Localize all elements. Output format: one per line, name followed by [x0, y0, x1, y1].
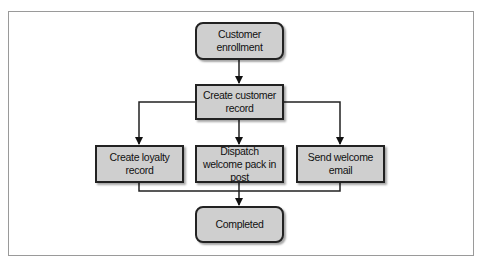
node-completed: Completed: [195, 206, 284, 243]
node-send-welcome-email: Send welcome email: [296, 145, 385, 183]
edge-create-loyalty: [139, 102, 195, 144]
node-create-customer-record: Create customer record: [195, 84, 284, 120]
node-label: Create loyalty record: [101, 151, 178, 177]
node-dispatch-welcome-pack: Dispatch welcome pack in post: [195, 145, 284, 183]
node-label: Send welcome email: [302, 151, 379, 177]
node-create-loyalty-record: Create loyalty record: [95, 145, 184, 183]
node-label: Create customer record: [201, 89, 278, 115]
node-customer-enrollment: Customer enrollment: [195, 22, 284, 60]
node-label: Completed: [215, 218, 263, 231]
node-label: Dispatch welcome pack in post: [201, 145, 278, 184]
node-label: Customer enrollment: [201, 28, 278, 54]
edge-create-email: [283, 102, 340, 144]
